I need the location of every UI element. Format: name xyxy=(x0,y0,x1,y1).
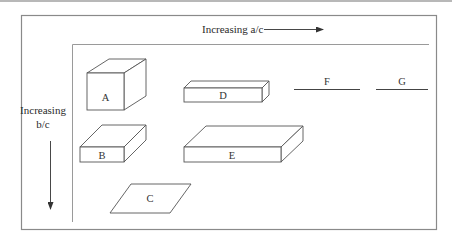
shape-a-label: A xyxy=(102,92,110,103)
x-axis-label-group: Increasing a/c xyxy=(202,23,323,35)
shape-ratio-diagram: Increasing a/c Increasing b/c A D F G B xyxy=(0,0,452,244)
shape-g-line: G xyxy=(376,76,428,90)
y-axis-label-line2: b/c xyxy=(36,118,50,130)
shape-f-line: F xyxy=(294,76,360,90)
shape-c-parallelogram: C xyxy=(110,184,191,213)
shape-b-label: B xyxy=(98,150,105,161)
outer-frame xyxy=(22,16,437,230)
shape-f-label: F xyxy=(324,76,330,87)
y-axis-label-line1: Increasing xyxy=(20,104,66,116)
shape-d-bar: D xyxy=(184,81,269,102)
shape-b-box: B xyxy=(80,125,146,162)
shape-a-cube: A xyxy=(87,59,146,110)
y-axis-label-group: Increasing b/c xyxy=(20,104,66,209)
shape-c-label: C xyxy=(146,193,153,204)
shape-e-slab: E xyxy=(184,126,303,162)
x-axis-label: Increasing a/c xyxy=(202,23,263,35)
shape-d-label: D xyxy=(219,90,227,101)
shape-g-label: G xyxy=(398,76,406,87)
shape-e-label: E xyxy=(229,150,235,161)
